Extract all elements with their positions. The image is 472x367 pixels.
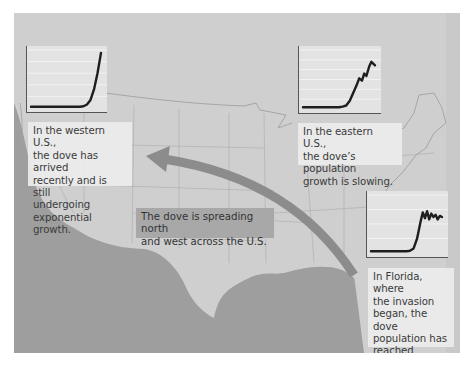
callout-west-line: the dove has arrived <box>33 150 127 175</box>
callout-spread: The dove is spreading north and west acr… <box>136 208 274 238</box>
chart-east-plot <box>299 46 381 113</box>
callout-east: In the eastern U.S., the dove’s populati… <box>298 123 402 165</box>
chart-florida <box>366 191 448 258</box>
callout-east-line: growth is slowing. <box>303 176 397 188</box>
callout-west-line: recently and is still <box>33 175 127 200</box>
callout-west: In the western U.S., the dove has arrive… <box>28 122 132 186</box>
callout-spread-line: The dove is spreading north <box>141 211 269 236</box>
callout-east-line: the dove’s population <box>303 151 397 176</box>
callout-florida-line: reached carrying <box>373 345 449 353</box>
population-curve <box>303 62 375 107</box>
callout-west-line: In the western U.S., <box>33 125 127 150</box>
callout-east-line: In the eastern U.S., <box>303 126 397 151</box>
callout-spread-line: and west across the U.S. <box>141 236 269 248</box>
callout-florida: In Florida, where the invasion began, th… <box>368 268 454 347</box>
callout-west-line: undergoing <box>33 199 127 211</box>
callout-florida-line: the invasion <box>373 296 449 308</box>
population-curve <box>371 211 442 251</box>
chart-east <box>298 46 381 114</box>
callout-florida-line: began, the dove <box>373 308 449 333</box>
population-curve <box>31 53 101 107</box>
callout-west-line: exponential growth. <box>33 212 127 237</box>
chart-west <box>26 46 107 113</box>
map-figure: In the western U.S., the dove has arrive… <box>14 13 460 353</box>
callout-florida-line: population has <box>373 333 449 345</box>
chart-florida-plot <box>367 191 448 257</box>
chart-west-plot <box>27 46 107 112</box>
callout-florida-line: In Florida, where <box>373 271 449 296</box>
